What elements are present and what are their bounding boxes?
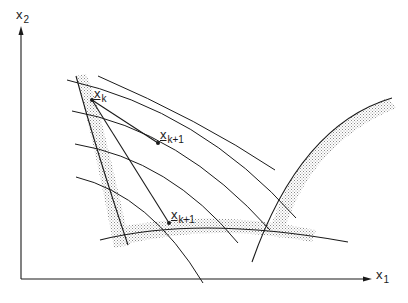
label-xk: xk xyxy=(94,87,107,100)
label-xk1-upper-subscript: k+1 xyxy=(168,134,184,145)
label-xk-subscript: k xyxy=(102,93,107,104)
diagram-svg xyxy=(0,0,408,303)
x-axis-label-subscript: 1 xyxy=(384,274,390,285)
contour-5 xyxy=(98,76,275,170)
y-axis-arrowhead-icon xyxy=(19,26,24,35)
y-axis-label-base: x xyxy=(16,7,23,22)
y-axis-label: x2 xyxy=(16,8,29,21)
label-xk1-upper-base: x xyxy=(160,127,167,142)
label-xk1-lower-subscript: k+1 xyxy=(179,214,195,225)
label-xk1-lower: xk+1 xyxy=(171,208,195,221)
label-xk-base: x xyxy=(94,86,101,101)
label-xk1-upper: xk+1 xyxy=(160,128,184,141)
y-axis-label-subscript: 2 xyxy=(24,14,30,25)
diagram-canvas: x2 x1 xk xk+1 xk+1 xyxy=(0,0,408,303)
x-axis-label: x1 xyxy=(376,268,389,281)
x-axis-arrowhead-icon xyxy=(363,277,372,282)
x-axis-label-base: x xyxy=(376,267,383,282)
label-xk1-lower-base: x xyxy=(171,207,178,222)
